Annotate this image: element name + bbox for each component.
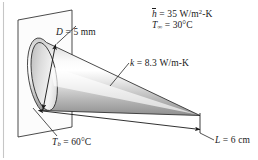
tb-units: °C <box>81 137 91 147</box>
figure-container: h = 35 W/m2-K T∞ = 30°C D = 5 mm k = 8.3… <box>0 0 258 160</box>
h-value: 35 <box>167 9 177 19</box>
t-inf-units: °C <box>182 20 192 30</box>
h-bar-symbol: h <box>152 9 157 19</box>
conical-fin <box>27 38 200 116</box>
convection-coefficient-label: h = 35 W/m2-K <box>152 8 212 19</box>
ambient-temperature-label: T∞ = 30°C <box>152 20 193 31</box>
h-units: W/m <box>179 9 198 19</box>
t-inf-value: 30 <box>173 20 183 30</box>
tb-value: 60 <box>71 137 81 147</box>
conductivity-label: k = 8.3 W/m-K <box>130 58 189 68</box>
length-leader-line <box>200 133 214 140</box>
base-temperature-label: Tb = 60°C <box>52 137 91 148</box>
length-label: L = 6 cm <box>215 135 250 145</box>
d-symbol: D <box>56 27 63 37</box>
h-units-tail: -K <box>202 9 212 19</box>
l-units: cm <box>238 135 250 145</box>
k-value: 8.3 <box>145 58 157 68</box>
k-units: W/m-K <box>159 58 189 68</box>
diameter-label: D = 5 mm <box>56 27 96 37</box>
d-units: mm <box>81 27 96 37</box>
